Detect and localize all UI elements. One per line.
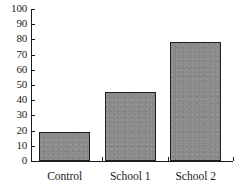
bar-chart: 1009080706050403020100 ControlSchool 1Sc… — [0, 0, 247, 191]
y-axis-tick-label: 50 — [1, 79, 27, 90]
y-axis-tick-label: 60 — [1, 64, 27, 75]
y-axis-tick-mark — [31, 9, 35, 10]
y-axis-tick-mark — [31, 100, 35, 101]
y-axis-tick-mark — [31, 131, 35, 132]
y-axis-tick-label: 80 — [1, 33, 27, 44]
y-axis-tick-label: 0 — [1, 155, 27, 166]
y-axis-tick-label: 40 — [1, 94, 27, 105]
x-axis-tick-mark — [102, 157, 103, 161]
bar — [105, 92, 156, 161]
y-axis-tick-mark — [31, 24, 35, 25]
y-axis-tick-mark — [31, 39, 35, 40]
y-axis-tick-mark — [31, 55, 35, 56]
y-axis-tick-labels: 1009080706050403020100 — [0, 0, 27, 191]
y-axis-tick-label: 10 — [1, 140, 27, 151]
x-axis-category-label: School 2 — [156, 170, 235, 182]
bar — [39, 132, 90, 161]
x-axis-tick-mark — [168, 157, 169, 161]
y-axis-tick-mark — [31, 115, 35, 116]
x-axis-tick-mark — [233, 157, 234, 161]
y-axis-tick-label: 30 — [1, 109, 27, 120]
y-axis-tick-label: 100 — [1, 3, 27, 14]
y-axis-tick-mark — [31, 85, 35, 86]
y-axis-tick-mark — [31, 70, 35, 71]
y-axis-tick-label: 20 — [1, 125, 27, 136]
bar — [170, 42, 221, 161]
y-axis-tick-label: 70 — [1, 49, 27, 60]
y-axis-tick-label: 90 — [1, 18, 27, 29]
x-axis-line — [31, 161, 233, 162]
y-axis-tick-mark — [31, 146, 35, 147]
